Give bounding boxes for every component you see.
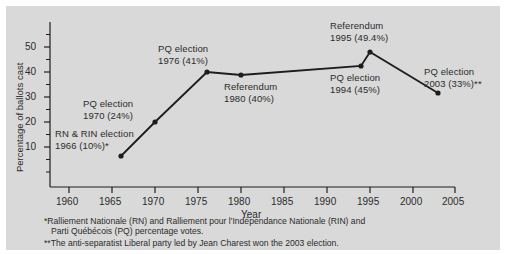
annotation-1976-line2: 1976 (41%) — [158, 55, 208, 67]
x-tick-label-1960: 1960 — [56, 196, 78, 207]
x-tick-label-1995: 1995 — [357, 196, 379, 207]
data-point-1980 — [238, 72, 243, 77]
y-tick-label-20: 20 — [25, 116, 36, 127]
annotation-1994-line1: PQ election — [330, 72, 380, 84]
annotation-1995-line2: 1995 (49.4%) — [330, 32, 388, 44]
annotation-1970-line2: 1970 (24%) — [83, 110, 133, 122]
y-axis-title: Percentage of ballots cast — [14, 63, 25, 172]
y-tick-label-50: 50 — [25, 41, 36, 52]
annotation-2003-line1: PQ election — [424, 66, 482, 78]
annotation-1994-line2: 1994 (45%) — [330, 84, 380, 96]
x-tick-label-1975: 1975 — [185, 196, 207, 207]
y-tick-label-40: 40 — [25, 66, 36, 77]
x-tick-label-1990: 1990 — [314, 196, 336, 207]
y-axis-ticks — [44, 47, 50, 147]
data-point-1970 — [152, 119, 157, 124]
data-point-1966 — [118, 153, 123, 158]
data-point-1976 — [204, 69, 209, 74]
annotation-1980-line1: Referendum — [224, 81, 277, 93]
footnote-line-2: Parti Québécois (PQ) percentage votes. — [51, 226, 203, 237]
annotation-1966-line1: RN & RIN election — [55, 128, 134, 140]
annotation-1966: RN & RIN election 1966 (10%)* — [55, 128, 134, 151]
data-line-series — [121, 52, 438, 156]
data-point-1994 — [358, 63, 363, 68]
footnote-line-3: **The anti-separatist Liberal party led … — [44, 238, 339, 249]
annotation-1994: PQ election 1994 (45%) — [330, 72, 380, 95]
annotation-1995: Referendum 1995 (49.4%) — [330, 20, 388, 43]
annotation-2003-line2: 2003 (33%)** — [424, 78, 482, 90]
x-tick-label-1970: 1970 — [142, 196, 164, 207]
x-tick-label-2005: 2005 — [442, 196, 464, 207]
annotation-1980-line2: 1980 (40%) — [224, 93, 277, 105]
footnote-line-1: *Ralliement Nationale (RN) and Ralliemen… — [44, 216, 365, 227]
annotation-1970: PQ election 1970 (24%) — [83, 98, 133, 121]
x-axis-ticks — [69, 187, 455, 193]
annotation-1970-line1: PQ election — [83, 98, 133, 110]
x-tick-label-2000: 2000 — [400, 196, 422, 207]
x-tick-label-1985: 1985 — [271, 196, 293, 207]
annotation-1976: PQ election 1976 (41%) — [158, 43, 208, 66]
data-point-1995 — [367, 49, 372, 54]
x-tick-label-1965: 1965 — [99, 196, 121, 207]
y-tick-label-30: 30 — [25, 91, 36, 102]
y-tick-label-10: 10 — [25, 141, 36, 152]
plot-area: Percentage of ballots cast 50 40 30 20 1… — [0, 0, 505, 254]
x-tick-label-1980: 1980 — [228, 196, 250, 207]
annotation-1966-line2: 1966 (10%)* — [55, 140, 134, 152]
annotation-1976-line1: PQ election — [158, 43, 208, 55]
annotation-1995-line1: Referendum — [330, 20, 388, 32]
chart-figure: Percentage of ballots cast 50 40 30 20 1… — [0, 0, 505, 254]
data-point-2003 — [435, 90, 440, 95]
annotation-2003: PQ election 2003 (33%)** — [424, 66, 482, 89]
annotation-1980: Referendum 1980 (40%) — [224, 81, 277, 104]
